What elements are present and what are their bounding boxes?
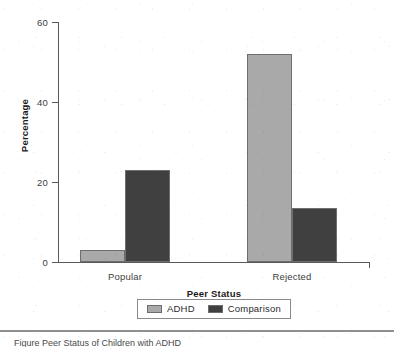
x-axis-title: Peer Status: [58, 288, 370, 299]
footer-caption: Figure Peer Status of Children with ADHD: [14, 338, 384, 347]
legend-label-comparison: Comparison: [228, 304, 281, 314]
y-tick-20: [52, 182, 58, 183]
figure-container: 60 40 20 0 Percentage Popular Rejected P…: [0, 0, 394, 347]
y-axis-line: [58, 22, 59, 262]
bar-rejected-adhd: [247, 54, 292, 262]
x-tick-label-popular: Popular: [80, 271, 170, 282]
chart-legend: ADHD Comparison: [137, 299, 291, 319]
x-tick-label-rejected: Rejected: [247, 271, 337, 282]
y-tick-label-0: 0: [8, 258, 48, 268]
x-axis-line: [58, 262, 370, 263]
y-axis-title: Percentage: [19, 66, 30, 186]
legend-entry-comparison: Comparison: [208, 304, 281, 314]
y-tick-label-60: 60: [8, 18, 48, 28]
legend-entry-adhd: ADHD: [147, 304, 195, 314]
y-tick-40: [52, 102, 58, 103]
y-tick-60: [52, 22, 58, 23]
footer-divider: [0, 330, 394, 332]
legend-label-adhd: ADHD: [167, 304, 195, 314]
y-tick-0: [52, 262, 58, 263]
bar-rejected-comparison: [292, 208, 337, 262]
x-axis-right-cap: [369, 262, 370, 268]
chart-plot-area: 60 40 20 0 Percentage Popular Rejected P…: [0, 0, 394, 290]
legend-swatch-icon-comparison: [208, 305, 223, 313]
bar-popular-adhd: [80, 250, 125, 262]
legend-swatch-icon-adhd: [147, 305, 162, 313]
bar-popular-comparison: [125, 170, 170, 262]
